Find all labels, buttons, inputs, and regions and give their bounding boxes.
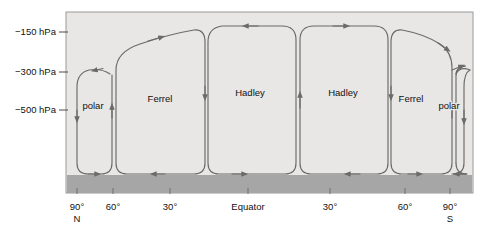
y-tick-label: −500 hPa bbox=[15, 104, 57, 115]
cell-label-ferrel-south: Ferrel bbox=[399, 93, 424, 104]
cell-label-ferrel-north: Ferrel bbox=[148, 93, 173, 104]
cell-label-hadley-north: Hadley bbox=[235, 87, 265, 98]
x-tick-sublabel: N bbox=[74, 213, 81, 224]
cell-label-hadley-south: Hadley bbox=[328, 87, 358, 98]
cell-label-polar-north: polar bbox=[82, 100, 103, 111]
x-tick-label: 90° bbox=[70, 201, 85, 212]
x-tick-label: Equator bbox=[231, 201, 264, 212]
x-tick-label: 30° bbox=[163, 201, 178, 212]
x-tick-label: 60° bbox=[106, 201, 121, 212]
x-tick-sublabel: S bbox=[447, 213, 453, 224]
x-tick-label: 60° bbox=[398, 201, 413, 212]
ground-strip bbox=[67, 175, 472, 193]
circulation-diagram: −150 hPa −300 hPa −500 hPa 90° N 60° 30°… bbox=[0, 0, 487, 239]
cell-label-polar-south: polar bbox=[438, 100, 459, 111]
x-tick-label: 30° bbox=[323, 201, 338, 212]
x-tick-label: 90° bbox=[443, 201, 458, 212]
y-tick-label: −300 hPa bbox=[15, 66, 57, 77]
y-tick-label: −150 hPa bbox=[15, 26, 57, 37]
